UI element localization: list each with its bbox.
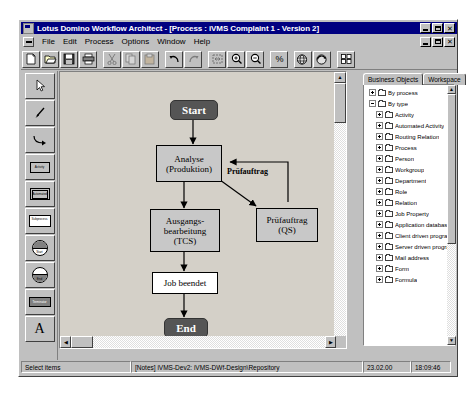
tree-item[interactable]: Person — [364, 153, 455, 164]
maximize-icon[interactable] — [432, 23, 443, 33]
application-window: Lotus Domino Workflow Architect - [Proce… — [18, 19, 458, 377]
open-icon[interactable] — [41, 51, 59, 68]
expand-icon[interactable] — [376, 166, 383, 173]
terminator-tool[interactable]: Terminator — [25, 289, 55, 315]
tree-item-label: Process — [395, 145, 417, 151]
tree-item[interactable]: Form — [364, 263, 455, 274]
tree-item[interactable]: Workgroup — [364, 164, 455, 175]
menu-item-help[interactable]: Help — [190, 36, 214, 47]
tree-scroll-down-icon[interactable]: ▼ — [447, 336, 456, 345]
scroll-left-icon[interactable]: ◀ — [60, 336, 71, 348]
new-icon[interactable] — [22, 51, 40, 68]
start-node-tool[interactable]: Start — [25, 235, 55, 261]
tree-item[interactable]: Process — [364, 142, 455, 153]
select-arrow-tool[interactable] — [25, 73, 55, 99]
canvas-horizontal-scrollbar[interactable]: ◀ ▶ — [60, 336, 347, 348]
save-icon[interactable] — [60, 51, 78, 68]
tree-item[interactable]: Formula — [364, 274, 455, 285]
tree-v-track[interactable] — [447, 94, 456, 336]
tree-item[interactable]: Role — [364, 186, 455, 197]
tree-v-thumb[interactable] — [447, 94, 456, 244]
tree-item[interactable]: By type — [364, 98, 455, 109]
fit-icon[interactable] — [208, 51, 226, 68]
node-aus-line2: bearbeitung — [164, 226, 206, 236]
menu-bar: File Edit Process Options Window Help ✕ — [21, 35, 457, 48]
zoom-percent-icon[interactable]: % — [270, 51, 288, 68]
canvas-h-track[interactable] — [71, 336, 325, 348]
expand-icon[interactable] — [376, 232, 383, 239]
paste-icon[interactable] — [141, 51, 159, 68]
expand-icon[interactable] — [376, 210, 383, 217]
zoom-out-icon[interactable] — [246, 51, 264, 68]
tree-item[interactable]: Job Property — [364, 208, 455, 219]
tree-item[interactable]: Client driven program — [364, 230, 455, 241]
tree-scroll-up-icon[interactable]: ▲ — [447, 85, 456, 94]
canvas-h-thumb[interactable] — [71, 336, 93, 348]
text-tool[interactable]: A — [25, 316, 55, 342]
mdi-minimize-icon[interactable] — [420, 37, 431, 47]
tree-item[interactable]: Department — [364, 175, 455, 186]
tree-item[interactable]: Automated Activity — [364, 120, 455, 131]
subprocess-tool-label: Subprocess — [29, 215, 51, 227]
process-canvas[interactable]: Start Analyse (Produktion) Prüfauftrag P… — [59, 71, 347, 349]
tree-item[interactable]: Application database — [364, 219, 455, 230]
tree-item[interactable]: Routing Relation — [364, 131, 455, 142]
expand-icon[interactable] — [376, 177, 383, 184]
activity-tool[interactable]: Activity — [25, 154, 55, 180]
expand-icon[interactable] — [376, 276, 383, 283]
expand-icon[interactable] — [376, 133, 383, 140]
print-icon[interactable] — [79, 51, 97, 68]
folder-icon — [385, 167, 393, 173]
refresh-globe-icon[interactable] — [313, 51, 331, 68]
end-node-tool[interactable]: End — [25, 262, 55, 288]
zoom-in-icon[interactable] — [227, 51, 245, 68]
expand-icon[interactable] — [369, 89, 376, 96]
expand-icon[interactable] — [376, 243, 383, 250]
cut-icon[interactable] — [103, 51, 121, 68]
subprocess-tool[interactable]: Subprocess — [25, 208, 55, 234]
canvas-v-thumb[interactable] — [334, 83, 346, 123]
expand-icon[interactable] — [376, 155, 383, 162]
folder-icon — [385, 244, 393, 250]
undo-icon[interactable] — [165, 51, 183, 68]
menu-item-edit[interactable]: Edit — [59, 36, 81, 47]
copy-icon[interactable] — [122, 51, 140, 68]
canvas-v-track[interactable] — [334, 83, 346, 339]
expand-icon[interactable] — [376, 188, 383, 195]
tree-item[interactable]: Relation — [364, 197, 455, 208]
globe-icon[interactable] — [294, 51, 312, 68]
expand-icon[interactable] — [376, 122, 383, 129]
close-icon[interactable]: ✕ — [444, 23, 455, 33]
redo-icon[interactable] — [184, 51, 202, 68]
tree-vertical-scrollbar[interactable]: ▲ ▼ — [447, 85, 456, 345]
system-menu-icon[interactable] — [23, 37, 34, 47]
collapse-icon[interactable] — [369, 100, 376, 107]
business-objects-tree[interactable]: By processBy typeActivityAutomated Activ… — [363, 84, 455, 346]
grid-icon[interactable] — [337, 51, 355, 68]
tab-business-objects[interactable]: Business Objects — [363, 73, 423, 85]
expand-icon[interactable] — [376, 199, 383, 206]
scroll-up-icon[interactable]: ▲ — [334, 72, 346, 83]
mdi-close-icon[interactable]: ✕ — [444, 37, 455, 47]
menu-item-process[interactable]: Process — [81, 36, 118, 47]
expand-icon[interactable] — [376, 265, 383, 272]
menu-item-window[interactable]: Window — [153, 36, 189, 47]
connector-tool[interactable] — [25, 127, 55, 153]
minimize-icon[interactable] — [420, 23, 431, 33]
tree-item[interactable]: Mail address — [364, 252, 455, 263]
scroll-right-icon[interactable]: ▶ — [325, 336, 336, 348]
menu-item-options[interactable]: Options — [118, 36, 154, 47]
automated-activity-tool[interactable]: Automated Activity — [25, 181, 55, 207]
pointer-tool[interactable] — [25, 100, 55, 126]
terminator-tool-label: Terminator — [29, 297, 51, 307]
expand-icon[interactable] — [376, 221, 383, 228]
tree-item[interactable]: Activity — [364, 109, 455, 120]
tree-item[interactable]: By process — [364, 87, 455, 98]
expand-icon[interactable] — [376, 144, 383, 151]
canvas-vertical-scrollbar[interactable]: ▲ ▼ — [334, 72, 346, 349]
expand-icon[interactable] — [376, 111, 383, 118]
tree-item[interactable]: Server driven program — [364, 241, 455, 252]
expand-icon[interactable] — [376, 254, 383, 261]
mdi-restore-icon[interactable] — [432, 37, 443, 47]
menu-item-file[interactable]: File — [38, 36, 59, 47]
